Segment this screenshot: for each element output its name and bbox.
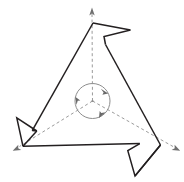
- geometry-diagram: [0, 0, 184, 182]
- symmetry-axes-group: [13, 8, 181, 151]
- axis-line-bottom-right: [93, 101, 174, 147]
- edge-left: [32, 23, 93, 131]
- barb-bottom-left-closure: [23, 131, 37, 146]
- barb-bottom-right: [128, 144, 161, 176]
- barb-bottom-right-closure: [135, 145, 161, 176]
- rotation-arrowhead-lower-right: [99, 111, 106, 118]
- edge-right: [106, 45, 161, 146]
- figure-container: Pinwheel figure with three-fold rotation…: [0, 0, 184, 182]
- edge-bottom: [23, 144, 140, 147]
- symmetry-center-dot: [91, 100, 93, 102]
- axis-arrowhead-bottom-right: [172, 145, 181, 151]
- rotation-arrowhead-left: [75, 97, 80, 105]
- axis-line-bottom-left: [20, 101, 93, 147]
- pinwheel-outline-group: [17, 23, 161, 176]
- axis-line-top: [92, 14, 93, 101]
- barb-top: [93, 23, 131, 45]
